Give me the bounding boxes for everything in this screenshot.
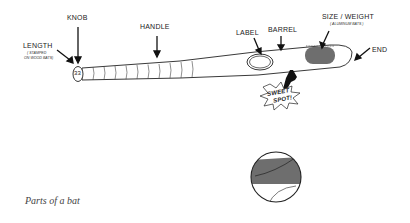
size-weight-patch (305, 47, 335, 64)
label-length-note-2: ON WOOD BATS) (24, 56, 53, 61)
knob-number: 33 (74, 70, 81, 76)
bat-diagram (0, 0, 410, 223)
bat-cross-section (250, 152, 302, 205)
label-knob: KNOB (67, 14, 88, 21)
label-size-weight: SIZE / WEIGHT (322, 13, 374, 20)
label-size-weight-note: ( ALUMINUM BATS ) (330, 22, 364, 27)
label-length-note-1: ( STAMPED (27, 51, 46, 56)
label-label: LABEL (236, 29, 259, 36)
label-end: END (372, 46, 387, 53)
label-barrel: BARREL (268, 26, 297, 33)
figure-caption: Parts of a bat (25, 195, 80, 206)
label-handle: HANDLE (140, 23, 170, 30)
label-length: LENGTH (23, 42, 53, 49)
